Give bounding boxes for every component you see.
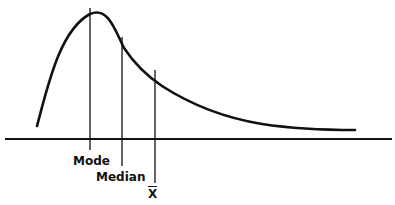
skewed-distribution-diagram — [0, 0, 395, 205]
distribution-curve — [37, 12, 355, 130]
median-label: Median — [96, 171, 145, 183]
mean-symbol: X — [148, 186, 157, 200]
mean-label: X — [148, 186, 157, 200]
mode-label: Mode — [73, 155, 110, 167]
